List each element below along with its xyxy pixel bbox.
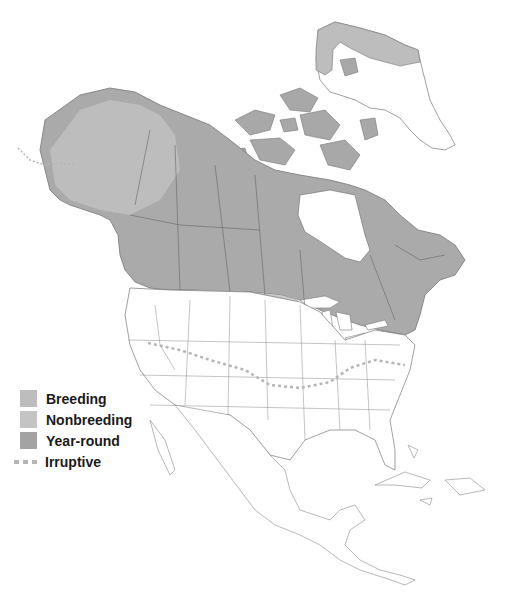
greenland — [316, 22, 455, 150]
legend-label: Year-round — [46, 433, 120, 449]
legend-item-irruptive: Irruptive — [20, 451, 132, 472]
irruptive-dashed-line-icon — [14, 460, 40, 464]
legend: Breeding Nonbreeding Year-round Irruptiv… — [20, 388, 132, 472]
range-map — [0, 0, 508, 600]
legend-label: Nonbreeding — [46, 412, 132, 428]
legend-item-nonbreeding: Nonbreeding — [20, 409, 132, 430]
legend-item-breeding: Breeding — [20, 388, 132, 409]
legend-label: Breeding — [46, 391, 107, 407]
year-round-swatch — [20, 432, 37, 449]
nonbreeding-swatch — [20, 411, 37, 428]
breeding-swatch — [20, 390, 37, 407]
legend-label: Irruptive — [45, 454, 101, 470]
legend-item-year-round: Year-round — [20, 430, 132, 451]
